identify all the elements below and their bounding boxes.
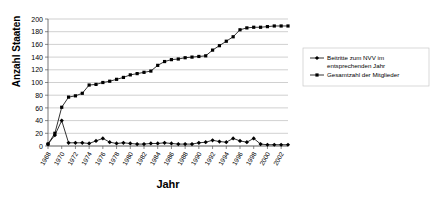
data-point (184, 56, 187, 59)
data-point (190, 56, 193, 59)
data-point (88, 83, 91, 86)
data-point (232, 35, 235, 38)
data-point (101, 81, 104, 84)
x-axis-tick-label: 2000 (258, 150, 271, 166)
y-axis-tick-label: 40 (35, 117, 43, 124)
x-axis-tick-label: 1982 (135, 150, 148, 166)
chart-container: Anzahl Staaten Jahr 02040608010012014016… (0, 0, 435, 199)
data-point (122, 76, 125, 79)
data-point (238, 28, 241, 31)
data-point (149, 69, 152, 72)
y-axis-tick-label: 80 (35, 92, 43, 99)
y-axis-tick-label: 200 (31, 16, 43, 23)
data-point (136, 72, 139, 75)
data-point (259, 26, 262, 29)
legend-label: Beitritte zum NVV im (327, 54, 384, 61)
y-axis-tick-label: 60 (35, 105, 43, 112)
data-point (177, 57, 180, 60)
data-point (218, 44, 221, 47)
y-axis-tick-label: 20 (35, 130, 43, 137)
y-axis-tick-label: 160 (31, 41, 43, 48)
data-point (273, 24, 276, 27)
data-point (94, 83, 97, 86)
legend-label: Gesamtzahl der Mitglieder (327, 71, 399, 78)
x-axis-tick-label: 1970 (52, 150, 65, 166)
data-point (53, 132, 56, 135)
data-point (170, 58, 173, 61)
x-axis-tick-label: 1974 (80, 150, 93, 166)
data-point (280, 24, 283, 27)
x-axis-tick-label: 1972 (66, 150, 79, 166)
x-axis-tick-label: 1988 (176, 150, 189, 166)
chart-plot: 0204060801001201401601802001968197019721… (0, 0, 435, 199)
y-axis-tick-label: 180 (31, 28, 43, 35)
data-point (74, 94, 77, 97)
data-point (81, 92, 84, 95)
data-point (245, 26, 248, 29)
y-axis-tick-label: 100 (31, 79, 43, 86)
x-axis-tick-label: 1976 (93, 150, 106, 166)
data-point (46, 142, 49, 145)
data-point (211, 49, 214, 52)
x-axis-tick-label: 1978 (107, 150, 120, 166)
x-axis-tick-label: 1984 (148, 150, 161, 166)
data-point (252, 26, 255, 29)
x-axis-tick-label: 1992 (203, 150, 216, 166)
x-axis-tick-label: 1986 (162, 150, 175, 166)
x-axis-tick-label: 1968 (39, 150, 52, 166)
legend-label: entsprechenden Jahr (327, 62, 385, 69)
data-point (197, 55, 200, 58)
x-axis-tick-label: 1990 (189, 150, 202, 166)
data-point (204, 54, 207, 57)
data-point (286, 24, 289, 27)
y-axis-tick-label: 140 (31, 54, 43, 61)
x-axis-tick-label: 2002 (272, 150, 285, 166)
x-axis-tick-label: 1998 (244, 150, 257, 166)
data-point (266, 25, 269, 28)
data-point (142, 71, 145, 74)
legend-marker (315, 73, 318, 76)
data-point (129, 73, 132, 76)
data-point (163, 60, 166, 63)
x-axis-tick-label: 1980 (121, 150, 134, 166)
data-point (115, 78, 118, 81)
data-point (225, 40, 228, 43)
y-axis-tick-label: 0 (39, 143, 43, 150)
x-axis-tick-label: 1994 (217, 150, 230, 166)
data-point (67, 96, 70, 99)
data-point (156, 64, 159, 67)
data-point (60, 106, 63, 109)
x-axis-tick-label: 1996 (231, 150, 244, 166)
y-axis-tick-label: 120 (31, 66, 43, 73)
data-point (108, 80, 111, 83)
